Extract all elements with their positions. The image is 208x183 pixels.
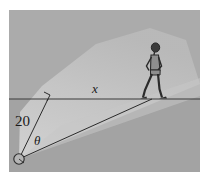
figure-root: 20 x θ xyxy=(0,0,208,183)
label-angle-theta: θ xyxy=(34,133,41,148)
label-distance-20: 20 xyxy=(15,113,30,129)
label-horizontal-x: x xyxy=(91,81,98,96)
spotlight-figure-svg: 20 x θ xyxy=(0,0,208,183)
